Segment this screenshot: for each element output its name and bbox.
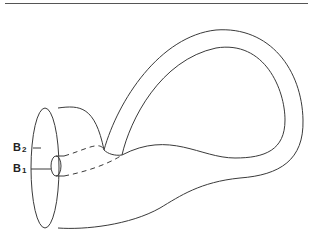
klein-bottle-drawing: [0, 0, 312, 242]
inner-ellipse-b1: [51, 156, 61, 176]
tube-outer-edge: [58, 30, 303, 229]
label-b1-text: B: [13, 162, 21, 174]
label-b2-sub: 2: [22, 145, 26, 154]
label-b1-sub: 1: [22, 166, 26, 175]
hidden-tube-lower: [64, 155, 122, 176]
tube-joint: [104, 150, 122, 155]
body-top-edge: [58, 107, 104, 150]
label-b2: B2: [13, 142, 26, 153]
tube-inner-edge: [122, 47, 285, 158]
label-b1: B1: [13, 163, 26, 174]
outer-ellipse-b2: [31, 108, 59, 228]
label-b2-text: B: [13, 141, 21, 153]
hidden-tube-upper: [64, 146, 104, 156]
